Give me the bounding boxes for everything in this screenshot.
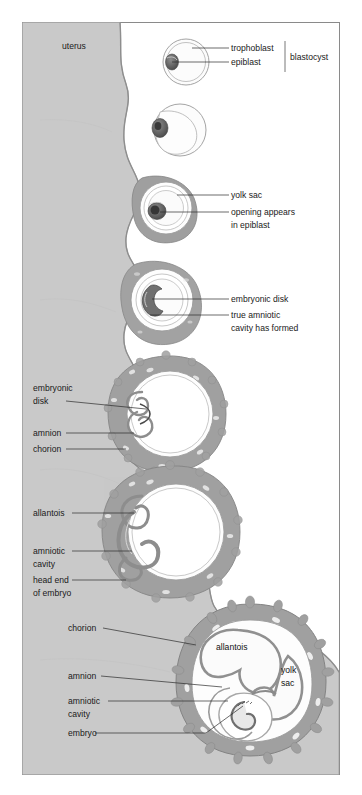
label-head-end-line1: head end bbox=[33, 575, 69, 585]
label-yolk-sac: yolk sac bbox=[231, 190, 263, 200]
label-embryonic-line1: embryonic bbox=[33, 383, 73, 393]
label-opening-line1: opening appears bbox=[231, 207, 295, 217]
label-allantois-inline: allantois bbox=[216, 642, 248, 652]
label-blastocyst: blastocyst bbox=[290, 52, 329, 62]
label-opening-line2: in epiblast bbox=[231, 220, 270, 230]
label-trophoblast: trophoblast bbox=[231, 43, 274, 53]
label-allantois: allantois bbox=[33, 508, 65, 518]
label-amniotic-b-line2: cavity bbox=[68, 709, 91, 719]
label-yolk-inline-line2: sac bbox=[281, 678, 295, 688]
label-yolk-inline-line1: yolk bbox=[281, 665, 297, 675]
label-embryo: embryo bbox=[68, 728, 97, 738]
label-true-amniotic-line2: cavity has formed bbox=[231, 323, 299, 333]
label-chorion-b: chorion bbox=[68, 623, 96, 633]
label-embryonic-disk: embryonic disk bbox=[231, 294, 289, 304]
label-amnion-b: amnion bbox=[68, 671, 96, 681]
label-amnion: amnion bbox=[33, 428, 61, 438]
label-chorion: chorion bbox=[33, 444, 61, 454]
label-true-amniotic-line1: true amniotic bbox=[231, 310, 281, 320]
label-epiblast: epiblast bbox=[231, 57, 261, 67]
label-uterus: uterus bbox=[62, 41, 86, 51]
label-embryonic-line2: disk bbox=[33, 396, 49, 406]
label-amniotic-b-line1: amniotic bbox=[68, 696, 101, 706]
label-amniotic-line1: amniotic bbox=[33, 546, 66, 556]
embryology-implantation-figure: uterus trophoblast epiblast blastocyst y… bbox=[0, 0, 362, 795]
label-amniotic-line2: cavity bbox=[33, 559, 56, 569]
label-head-end-line2: of embryo bbox=[33, 588, 71, 598]
